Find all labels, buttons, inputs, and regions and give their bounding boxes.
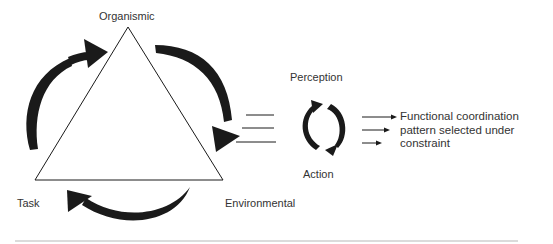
output-line-3: constraint [400, 137, 519, 151]
vertex-label-environmental: Environmental [225, 197, 295, 210]
curved-arrow-organismic-to-environmental-icon [155, 45, 240, 152]
output-line-2: pattern selected under [400, 124, 519, 138]
cycle-label-action: Action [303, 168, 334, 181]
cycle-label-perception: Perception [290, 71, 343, 84]
perception-action-cycle-icon [303, 100, 346, 156]
output-line-1: Functional coordination [400, 110, 519, 124]
curved-arrow-task-to-organismic-icon [26, 39, 108, 150]
constraints-triangle [35, 27, 223, 180]
output-arrows-icon [362, 115, 397, 146]
output-description: Functional coordination pattern selected… [400, 110, 519, 151]
vertex-label-organismic: Organismic [99, 10, 155, 23]
curved-arrow-environmental-to-task-icon [67, 187, 190, 220]
constraints-diagram: Organismic Task Environmental Perception… [0, 0, 553, 244]
vertex-label-task: Task [17, 197, 40, 210]
equivalence-lines-icon [236, 115, 276, 142]
